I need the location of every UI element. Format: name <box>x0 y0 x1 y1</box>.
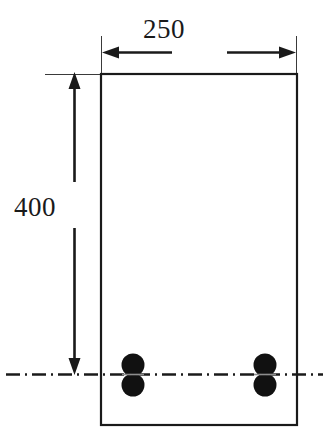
width-arrowhead-left <box>102 47 119 59</box>
rebar-right-lower <box>254 374 277 397</box>
height-arrowhead-lower <box>69 358 81 375</box>
height-dimension-label: 400 <box>14 194 56 221</box>
width-dimension-label: 250 <box>0 16 328 43</box>
beam-section-drawing: 250 400 <box>0 0 328 441</box>
width-arrowhead-right <box>279 47 296 59</box>
rebar-right-upper <box>254 354 277 377</box>
rebar-left-upper <box>122 354 145 377</box>
rebar-left-lower <box>122 374 145 397</box>
width-dimension <box>102 47 296 59</box>
height-dimension <box>69 72 81 375</box>
